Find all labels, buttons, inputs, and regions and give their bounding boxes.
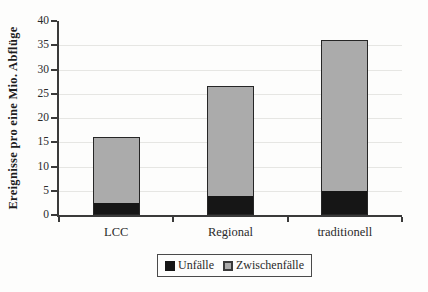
x-category-label: Regional xyxy=(208,225,253,240)
y-axis-tick-label: 5 xyxy=(43,185,49,197)
bar-segment-series-1 xyxy=(94,138,139,203)
x-axis-tick xyxy=(287,217,289,222)
legend-item-series-1: Zwischenfälle xyxy=(223,258,304,273)
bar-segment-series-1 xyxy=(322,41,367,191)
bar-segment-series-1 xyxy=(208,87,253,196)
y-axis-tick xyxy=(51,117,57,119)
x-axis-tick xyxy=(401,217,403,222)
bar-segment-series-0 xyxy=(322,190,367,214)
y-axis-tick-label: 15 xyxy=(38,137,50,149)
y-axis-tick-label: 0 xyxy=(43,209,49,221)
y-axis-tick-label: 20 xyxy=(38,112,50,124)
y-axis-tick-label: 25 xyxy=(38,88,50,100)
y-axis-tick xyxy=(51,69,57,71)
x-category-label: traditionell xyxy=(317,225,372,240)
y-axis-title: Ereignisse pro eine Mio. Abflüge xyxy=(6,26,21,209)
y-axis-tick xyxy=(51,93,57,95)
bar-segment-series-0 xyxy=(208,195,253,214)
y-axis-tick-label: 35 xyxy=(38,40,50,52)
legend-swatch-icon xyxy=(165,261,175,271)
legend-swatch-icon xyxy=(223,261,233,271)
legend-item-series-0: Unfälle xyxy=(165,258,214,273)
bar-stack-lcc xyxy=(93,137,140,215)
y-axis-tick xyxy=(51,141,57,143)
bar-stack-regional xyxy=(207,86,254,215)
x-axis-tick xyxy=(58,217,60,222)
bar-stack-traditionell xyxy=(321,40,368,215)
x-axis-tick xyxy=(172,217,174,222)
legend: UnfälleZwischenfälle xyxy=(157,254,312,277)
y-axis-tick xyxy=(51,20,57,22)
y-axis-tick-label: 10 xyxy=(38,161,50,173)
bar-segment-series-0 xyxy=(94,202,139,214)
chart-figure: Ereignisse pro eine Mio. Abflüge 0510152… xyxy=(0,0,428,292)
y-axis-tick-label: 30 xyxy=(38,64,50,76)
y-axis-tick xyxy=(51,214,57,216)
y-axis-tick-label: 40 xyxy=(38,15,50,27)
x-category-label: LCC xyxy=(104,225,128,240)
legend-label: Unfälle xyxy=(178,258,214,273)
y-axis-tick xyxy=(51,44,57,46)
y-axis-tick xyxy=(51,166,57,168)
legend-label: Zwischenfälle xyxy=(236,258,304,273)
y-axis-tick xyxy=(51,190,57,192)
plot-area: 0510152025303540LCCRegionaltraditionell xyxy=(57,21,402,217)
